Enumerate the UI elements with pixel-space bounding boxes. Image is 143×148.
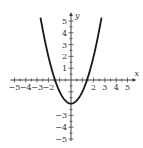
- x-tick-label: 4: [114, 83, 119, 92]
- axes: [11, 12, 137, 141]
- y-tick-label: 2: [62, 52, 67, 61]
- y-tick-label: 3: [62, 41, 67, 50]
- y-tick-label: −5: [55, 135, 67, 144]
- y-tick-label: 5: [62, 17, 67, 26]
- x-tick-label: 5: [125, 83, 130, 92]
- y-tick-label: 1: [62, 64, 67, 73]
- x-axis-label: x: [135, 69, 140, 78]
- x-tick-label: 3: [102, 83, 107, 92]
- y-tick-label: −3: [55, 111, 67, 120]
- x-axis-arrow-icon: [133, 78, 137, 82]
- y-axis-arrow-icon: [69, 12, 73, 16]
- y-axis-label: y: [74, 11, 80, 20]
- x-tick-label: −3: [31, 83, 43, 92]
- parabola-graph: −5−4−3−2234554321−3−4−5 x y: [0, 0, 143, 148]
- x-tick-label: −2: [43, 83, 55, 92]
- y-tick-label: 4: [62, 29, 67, 38]
- x-tick-label: −5: [9, 83, 21, 92]
- x-tick-label: 2: [91, 83, 96, 92]
- tick-labels: −5−4−3−2234554321−3−4−5: [9, 17, 130, 144]
- y-tick-label: −4: [55, 123, 67, 132]
- x-tick-label: −4: [20, 83, 32, 92]
